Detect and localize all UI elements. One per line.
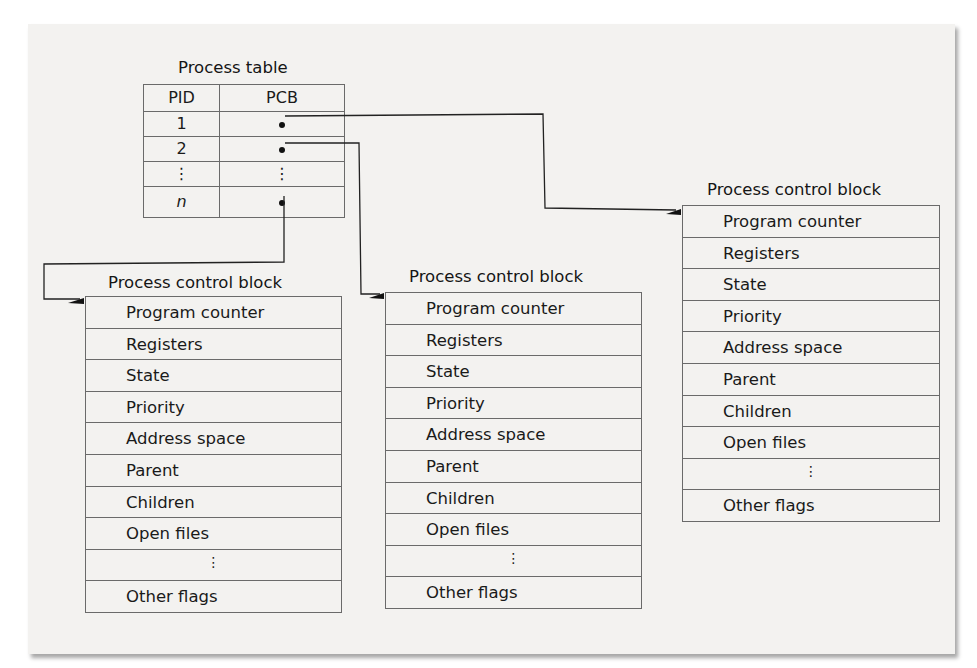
connector-wires — [0, 0, 977, 668]
connector-pidn-to-left-pcb — [44, 196, 284, 299]
connector-pid1-to-right-pcb — [285, 114, 676, 210]
connector-pid2-to-middle-pcb — [285, 143, 380, 294]
